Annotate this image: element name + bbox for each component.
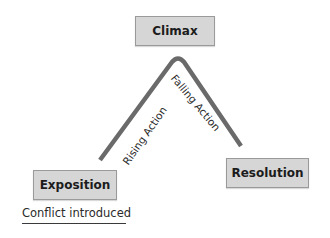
plot-structure-diagram: Climax Exposition Resolution Rising Acti… <box>0 0 330 238</box>
climax-label: Climax <box>152 24 197 38</box>
conflict-introduced-note: Conflict introduced <box>22 206 126 224</box>
exposition-node: Exposition <box>33 170 117 200</box>
exposition-label: Exposition <box>40 178 111 192</box>
resolution-node: Resolution <box>226 158 309 188</box>
resolution-label: Resolution <box>231 166 303 180</box>
climax-node: Climax <box>135 16 215 46</box>
